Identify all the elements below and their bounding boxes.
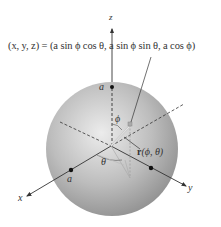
y-intercept-dot [149,166,153,170]
z-intercept-dot [110,85,114,89]
z-axis-label: z [109,13,113,22]
x-intercept-dot [69,168,73,172]
sphere-parametrization-diagram: (x, y, z) = (a sin ϕ cos θ, a sin ϕ sin … [0,0,221,227]
position-vector-label: r(ϕ, θ) [137,147,163,157]
z-radius-label: a [99,82,104,92]
parametrization-formula: (x, y, z) = (a sin ϕ cos θ, a sin ϕ sin … [8,41,195,52]
vector-args: (ϕ, θ) [141,146,163,157]
theta-label: θ [101,157,106,167]
surface-point [128,122,132,126]
phi-label: ϕ [115,114,120,124]
x-radius-label: a [67,174,72,184]
y-axis-label: y [188,183,192,193]
x-axis-label: x [18,193,22,203]
